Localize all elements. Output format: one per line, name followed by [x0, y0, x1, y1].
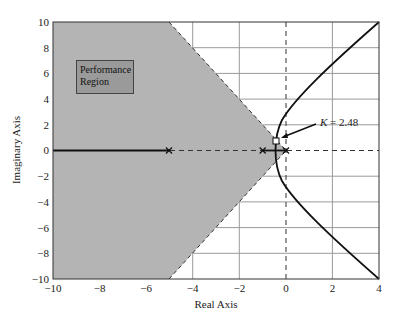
svg-text:2: 2 [330, 282, 336, 294]
svg-text:2: 2 [44, 119, 50, 131]
svg-text:4: 4 [44, 93, 50, 105]
gain-marker [273, 138, 279, 144]
gain-annotation: K = 2.48 [320, 116, 358, 128]
svg-text:−2: −2 [37, 170, 49, 182]
root-locus-chart: 10 8 6 4 2 0 −2 −4 −6 −8 −10 −10 −8 −6 −… [0, 0, 399, 318]
svg-text:−2: −2 [233, 282, 245, 294]
svg-text:−4: −4 [37, 196, 49, 208]
svg-text:−6: −6 [140, 282, 152, 294]
svg-text:8: 8 [44, 42, 50, 54]
svg-text:10: 10 [38, 16, 50, 28]
region-label-line2: Region [80, 76, 133, 88]
region-label-line1: Performance [80, 64, 133, 76]
x-axis-label: Real Axis [194, 298, 237, 310]
performance-region-label: Performance Region [76, 60, 134, 94]
svg-text:−4: −4 [187, 282, 199, 294]
svg-text:0: 0 [283, 282, 289, 294]
svg-text:6: 6 [44, 67, 50, 79]
svg-text:−10: −10 [44, 282, 62, 294]
y-tick-labels: 10 8 6 4 2 0 −2 −4 −6 −8 −10 [32, 16, 50, 285]
gain-value: = 2.48 [327, 116, 358, 128]
svg-text:−8: −8 [94, 282, 106, 294]
svg-text:−6: −6 [37, 222, 49, 234]
y-axis-label: Imaginary Axis [10, 116, 22, 184]
svg-text:4: 4 [376, 282, 382, 294]
svg-text:−8: −8 [37, 247, 49, 259]
svg-text:0: 0 [44, 144, 50, 156]
x-tick-labels: −10 −8 −6 −4 −2 0 2 4 [44, 282, 382, 294]
